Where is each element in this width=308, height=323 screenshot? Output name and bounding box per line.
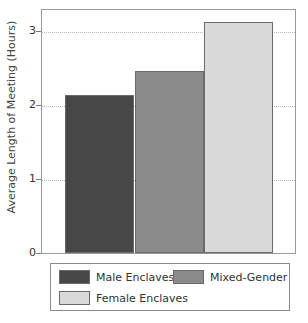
legend-label-mixed: Mixed-Gender <box>210 271 287 284</box>
y-tick-label-3: 3 <box>22 24 36 37</box>
legend-item-male-enclaves: Male Enclaves <box>59 270 174 284</box>
y-axis-title: Average Length of Meeting (Hours) <box>5 44 18 214</box>
legend-swatch-female <box>59 291 90 305</box>
legend-item-female-enclaves: Female Enclaves <box>59 291 188 305</box>
bar-female-enclaves <box>204 22 273 253</box>
bar-male-enclaves <box>65 95 134 253</box>
bar-mixed-gender <box>135 71 204 253</box>
legend-swatch-mixed <box>173 270 204 284</box>
legend-swatch-male <box>59 270 90 284</box>
legend-label-male: Male Enclaves <box>96 271 174 284</box>
legend: Male Enclaves Mixed-Gender Female Enclav… <box>50 263 290 311</box>
y-tick-label-0: 0 <box>22 246 36 259</box>
legend-label-female: Female Enclaves <box>96 292 188 305</box>
y-tick-label-2: 2 <box>22 98 36 111</box>
y-tick-label-1: 1 <box>22 172 36 185</box>
legend-item-mixed-gender: Mixed-Gender <box>173 270 287 284</box>
